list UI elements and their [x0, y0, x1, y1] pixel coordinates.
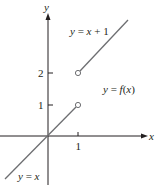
y-tick-label-1: 1 [38, 99, 44, 111]
curve-lower-piece [5, 107, 76, 179]
open-circle-icon [75, 70, 80, 75]
y-axis-label: y [43, 1, 49, 13]
y-tick-label-2: 2 [38, 67, 44, 79]
label-upper-piece: y = x + 1 [69, 25, 109, 37]
y-axis-arrow-icon [46, 13, 51, 20]
label-function: y = f(x) [102, 83, 135, 96]
x-axis-label: x [148, 130, 154, 142]
x-axis-arrow-icon [141, 134, 148, 139]
label-lower-piece: y = x [17, 170, 40, 182]
function-graph: y x 1 1 2 y = x + 1 y = f(x) y = x [0, 0, 155, 185]
open-circle-icon [75, 102, 80, 107]
x-tick-label-1: 1 [76, 140, 82, 152]
